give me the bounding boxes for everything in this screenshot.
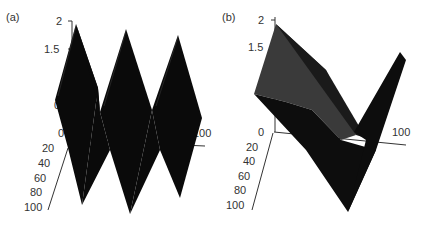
svg-text:80: 80	[234, 184, 246, 196]
panel-a: (a) 2 1.5 0 0 100 20 40 60 80 100	[0, 0, 216, 225]
svg-text:80: 80	[30, 186, 42, 198]
z-tick-2: 2	[56, 15, 62, 27]
svg-text:20: 20	[246, 141, 258, 153]
svg-text:100: 100	[226, 199, 244, 211]
svg-text:100: 100	[24, 201, 42, 213]
z-tick-1-5: 1.5	[248, 41, 263, 53]
surface-plot-b: 2 1.5 0 100 60 20 40 60 80 100	[216, 0, 432, 225]
z-tick-0: 0	[258, 126, 264, 138]
svg-text:40: 40	[38, 157, 50, 169]
surface-mesh-a	[55, 24, 202, 214]
z-tick-2: 2	[258, 14, 264, 26]
surface-mesh-b	[254, 24, 406, 212]
z-tick-1-5: 1.5	[44, 43, 59, 55]
svg-text:60: 60	[238, 170, 250, 182]
panel-b: (b) 2 1.5 0 100 60 20 40 60 80 100	[216, 0, 432, 225]
svg-text:60: 60	[34, 172, 46, 184]
x-tick-100: 100	[392, 126, 410, 138]
surface-plot-a: 2 1.5 0 0 100 20 40 60 80 100	[0, 0, 216, 225]
svg-text:20: 20	[42, 142, 54, 154]
svg-text:40: 40	[243, 155, 255, 167]
y-ticks-a: 20 40 60 80 100	[24, 142, 54, 213]
y-ticks-b: 20 40 60 80 100	[226, 141, 258, 211]
